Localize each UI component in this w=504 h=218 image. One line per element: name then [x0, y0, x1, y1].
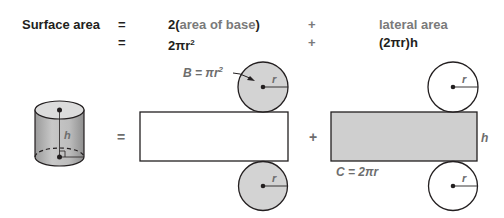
top-base-radius-label: r — [272, 73, 277, 85]
cylinder-height-label: h — [64, 129, 71, 141]
bases-net: r r B = πr2 — [140, 62, 288, 211]
base-area-label: B = πr2 — [183, 65, 224, 80]
lateral-top-radius-label: r — [462, 73, 467, 85]
circumference-label: C = 2πr — [336, 165, 380, 179]
lateral-height-label: h — [481, 131, 488, 145]
cylinder-figure: h — [35, 101, 84, 166]
diagram-plus-sign: + — [309, 129, 317, 145]
lateral-bottom-radius-label: r — [462, 172, 467, 184]
diagram-equals-sign: = — [117, 129, 125, 145]
net-diagram: h = + r r B = πr2 r r h C = 2πr — [0, 0, 504, 218]
lateral-net: r r h C = 2πr — [331, 62, 488, 211]
bottom-base-radius-label: r — [272, 172, 277, 184]
